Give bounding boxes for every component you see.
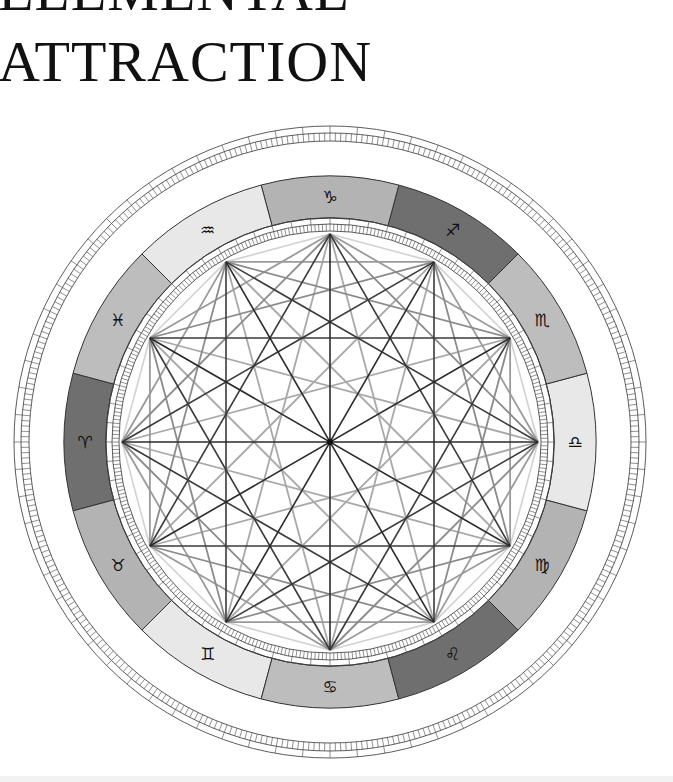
capricorn-glyph-icon: ♑︎ bbox=[322, 187, 337, 207]
zodiac-aspect-wheel: ♈︎♉︎♊︎♋︎♌︎♍︎♎︎♏︎♐︎♑︎♒︎♓︎ bbox=[0, 0, 673, 782]
gemini-glyph-icon: ♊︎ bbox=[200, 644, 215, 664]
cancer-glyph-icon: ♋︎ bbox=[322, 677, 337, 697]
aquarius-glyph-icon: ♒︎ bbox=[200, 220, 215, 240]
sagittarius-glyph-icon: ♐︎ bbox=[445, 220, 460, 240]
aries-glyph-icon: ♈︎ bbox=[77, 432, 92, 452]
taurus-glyph-icon: ♉︎ bbox=[110, 555, 125, 575]
leo-glyph-icon: ♌︎ bbox=[445, 644, 460, 664]
scorpio-glyph-icon: ♏︎ bbox=[535, 310, 550, 330]
pisces-glyph-icon: ♓︎ bbox=[110, 310, 125, 330]
center-point bbox=[327, 439, 333, 445]
virgo-glyph-icon: ♍︎ bbox=[535, 555, 550, 575]
page-bottom-edge bbox=[0, 776, 673, 782]
libra-glyph-icon: ♎︎ bbox=[567, 432, 582, 452]
